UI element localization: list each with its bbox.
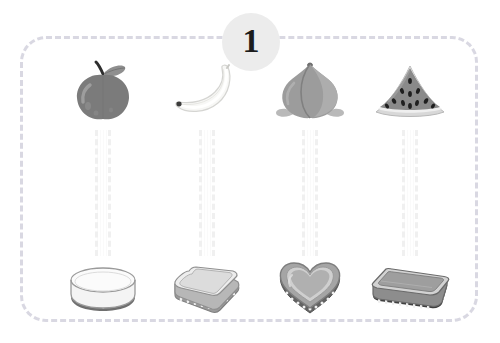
heart-mold-icon [276, 261, 344, 317]
worksheet-canvas: 1 [0, 0, 500, 343]
square-container-icon [168, 262, 246, 316]
exercise-number-label: 1 [243, 24, 260, 58]
vessel-heart-mold[interactable] [255, 258, 365, 320]
connector-path-4 [401, 130, 419, 256]
fruit-apple[interactable] [48, 60, 158, 124]
match-column-2 [152, 60, 262, 320]
watermelon-slice-icon [371, 63, 449, 121]
vessel-rectangular-tray[interactable] [355, 258, 465, 320]
connector-path-2 [198, 130, 216, 256]
apple-icon [70, 61, 136, 123]
fruit-watermelon-slice[interactable] [355, 60, 465, 124]
connector-path-1 [94, 130, 112, 256]
match-column-3 [255, 60, 365, 320]
fruit-peach[interactable] [255, 60, 365, 124]
round-bowl-icon [65, 264, 141, 314]
vessel-square-container[interactable] [152, 258, 262, 320]
connector-path-3 [301, 130, 319, 256]
peach-icon [274, 61, 346, 123]
banana-icon [170, 63, 244, 121]
vessel-round-bowl[interactable] [48, 258, 158, 320]
match-column-4 [355, 60, 465, 320]
exercise-number-badge: 1 [222, 13, 280, 71]
rectangular-tray-icon [368, 263, 452, 315]
match-column-1 [48, 60, 158, 320]
